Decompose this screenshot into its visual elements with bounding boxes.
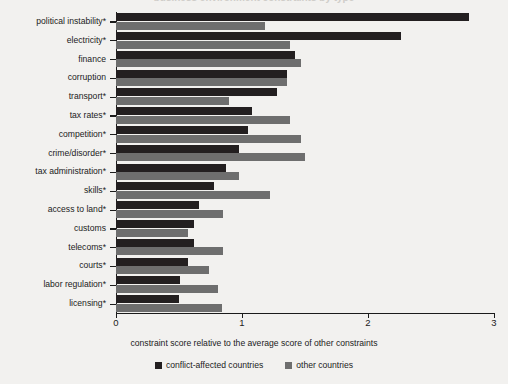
y-tick xyxy=(110,59,116,60)
y-tick xyxy=(110,97,116,98)
bar-other-countries xyxy=(116,78,287,86)
bar-row xyxy=(116,200,494,219)
y-tick xyxy=(110,210,116,211)
chart-title-clipped: business environment constraints by type xyxy=(0,0,508,4)
bar-conflict-affected xyxy=(116,145,239,153)
y-tick xyxy=(110,21,116,22)
bar-conflict-affected xyxy=(116,258,188,266)
bar-conflict-affected xyxy=(116,239,194,247)
bar-conflict-affected xyxy=(116,182,214,190)
legend-label: conflict-affected countries xyxy=(166,360,263,370)
category-label: telecoms* xyxy=(0,242,106,252)
legend-item-conflict[interactable]: conflict-affected countries xyxy=(155,360,263,370)
bar-other-countries xyxy=(116,41,290,49)
category-label: finance xyxy=(0,54,106,64)
bar-row xyxy=(116,181,494,200)
bar-row xyxy=(116,294,494,313)
x-tick-label: 3 xyxy=(484,317,504,328)
bar-conflict-affected xyxy=(116,126,248,134)
bar-conflict-affected xyxy=(116,107,252,115)
y-tick xyxy=(110,172,116,173)
bar-other-countries xyxy=(116,59,301,67)
category-label: labor regulation* xyxy=(0,279,106,289)
category-label: customs xyxy=(0,223,106,233)
legend-swatch-icon xyxy=(285,362,292,369)
y-tick xyxy=(110,228,116,229)
bar-row xyxy=(116,163,494,182)
y-tick xyxy=(110,153,116,154)
bar-conflict-affected xyxy=(116,164,226,172)
category-label: transport* xyxy=(0,91,106,101)
bar-other-countries xyxy=(116,304,222,312)
bar-row xyxy=(116,219,494,238)
legend-label: other countries xyxy=(296,360,353,370)
category-label: licensing* xyxy=(0,298,106,308)
bar-row xyxy=(116,12,494,31)
bar-row xyxy=(116,257,494,276)
bar-other-countries xyxy=(116,285,218,293)
x-axis-title: constraint score relative to the average… xyxy=(0,338,508,348)
bar-other-countries xyxy=(116,153,305,161)
chart-legend: conflict-affected countriesother countri… xyxy=(0,360,508,370)
bar-other-countries xyxy=(116,22,265,30)
bar-conflict-affected xyxy=(116,51,295,59)
category-label: skills* xyxy=(0,185,106,195)
y-tick xyxy=(110,285,116,286)
y-tick xyxy=(110,191,116,192)
bar-conflict-affected xyxy=(116,295,179,303)
bar-conflict-affected xyxy=(116,220,194,228)
bar-other-countries xyxy=(116,172,239,180)
bar-other-countries xyxy=(116,191,270,199)
bar-conflict-affected xyxy=(116,201,199,209)
y-tick xyxy=(110,40,116,41)
bar-other-countries xyxy=(116,116,290,124)
x-tick-label: 2 xyxy=(358,317,378,328)
bar-other-countries xyxy=(116,97,229,105)
category-label: tax rates* xyxy=(0,110,106,120)
y-tick xyxy=(110,266,116,267)
bar-row xyxy=(116,238,494,257)
category-label: access to land* xyxy=(0,204,106,214)
bar-conflict-affected xyxy=(116,88,277,96)
bar-other-countries xyxy=(116,247,223,255)
category-label: tax administration* xyxy=(0,166,106,176)
bar-other-countries xyxy=(116,210,223,218)
y-tick xyxy=(110,247,116,248)
category-label: corruption xyxy=(0,72,106,82)
y-tick xyxy=(110,304,116,305)
bar-other-countries xyxy=(116,229,188,237)
y-tick xyxy=(110,134,116,135)
bar-row xyxy=(116,87,494,106)
bar-row xyxy=(116,144,494,163)
bar-other-countries xyxy=(116,266,209,274)
bar-row xyxy=(116,106,494,125)
category-label: crime/disorder* xyxy=(0,148,106,158)
x-tick-label: 0 xyxy=(106,317,126,328)
legend-item-other[interactable]: other countries xyxy=(285,360,353,370)
category-label: political instability* xyxy=(0,16,106,26)
bar-conflict-affected xyxy=(116,70,287,78)
bar-row xyxy=(116,31,494,50)
category-label: electricity* xyxy=(0,35,106,45)
bar-conflict-affected xyxy=(116,276,180,284)
y-tick xyxy=(110,78,116,79)
x-tick-label: 1 xyxy=(232,317,252,328)
y-tick xyxy=(110,115,116,116)
x-axis-line xyxy=(116,313,494,314)
bar-row xyxy=(116,275,494,294)
category-label: competition* xyxy=(0,129,106,139)
bar-conflict-affected xyxy=(116,13,469,21)
bar-row xyxy=(116,125,494,144)
bar-conflict-affected xyxy=(116,32,401,40)
bar-chart: business environment constraints by type… xyxy=(0,0,508,384)
legend-swatch-icon xyxy=(155,362,162,369)
bar-row xyxy=(116,50,494,69)
bar-row xyxy=(116,68,494,87)
bar-other-countries xyxy=(116,135,301,143)
category-label: courts* xyxy=(0,260,106,270)
